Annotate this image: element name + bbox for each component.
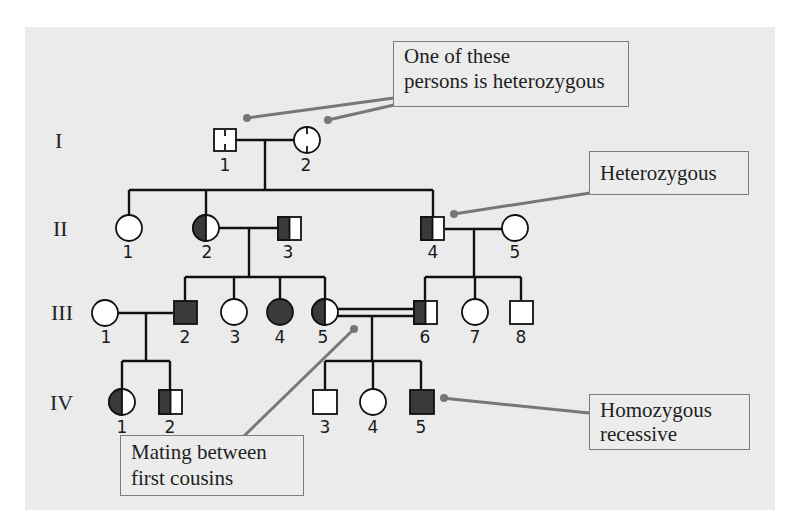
label-II-5: 5 [510,242,521,262]
generation-label-III: III [51,300,73,325]
individual-IV-2 [159,390,182,414]
individual-III-7 [462,299,488,325]
individual-II-3 [278,217,301,240]
individual-II-5 [502,215,528,241]
callout-one-heterozygous: One of these persons is heterozygous [393,41,629,107]
callout-text: Heterozygous [600,154,738,192]
individual-II-4 [421,217,444,240]
label-I-1: 1 [220,155,231,175]
callout-text-line-2: persons is heterozygous [404,69,618,94]
label-II-2: 2 [202,242,213,262]
individual-II-2 [193,215,219,241]
label-III-1: 1 [101,327,112,347]
callout-text-line-1: Homozygous [600,398,739,422]
label-IV-1: 1 [117,417,128,437]
callout-text-line-2: recessive [600,422,739,446]
individual-IV-4 [360,389,386,415]
callout-text-line-1: Mating between [131,439,293,465]
callout-first-cousins: Mating between first cousins [120,435,304,496]
label-III-2: 2 [180,327,191,347]
label-III-3: 3 [230,327,241,347]
label-II-3: 3 [283,242,294,262]
callout-text-line-1: One of these [404,44,618,69]
individual-III-3 [221,299,247,325]
individual-III-2 [174,301,197,324]
individual-IV-3 [313,390,337,414]
callout-homozygous-recessive: Homozygous recessive [589,394,750,450]
label-I-2: 2 [301,155,312,175]
label-III-4: 4 [275,327,286,347]
label-III-8: 8 [516,327,527,347]
label-III-5: 5 [318,327,329,347]
label-IV-3: 3 [320,417,331,437]
label-III-7: 7 [470,327,481,347]
individual-III-1 [92,300,118,326]
individual-III-6 [414,301,437,324]
generation-label-I: I [55,128,62,153]
label-II-1: 1 [123,242,134,262]
generation-label-IV: IV [50,390,73,415]
callout-heterozygous: Heterozygous [589,151,749,195]
individual-III-8 [510,301,533,324]
label-IV-2: 2 [165,417,176,437]
individual-III-5 [312,299,338,325]
individual-I-2 [294,127,320,153]
individual-IV-5 [410,390,434,414]
label-II-4: 4 [428,242,439,262]
individual-II-1 [116,215,142,241]
generation-label-II: II [53,216,68,241]
callout-text-line-2: first cousins [131,465,293,491]
label-IV-4: 4 [368,417,379,437]
label-IV-5: 5 [416,417,427,437]
individual-IV-1 [109,389,135,415]
individual-III-4 [267,299,293,325]
label-III-6: 6 [420,327,431,347]
individual-I-1 [214,129,236,151]
